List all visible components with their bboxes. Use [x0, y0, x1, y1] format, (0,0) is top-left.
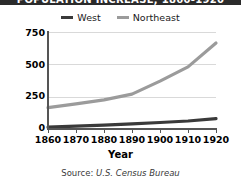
source-prefix: Source:: [61, 168, 93, 178]
series-line-west: [48, 119, 216, 127]
y-tick-label-750: 750: [17, 28, 45, 38]
x-axis-title: Year: [0, 149, 241, 160]
x-tick-1900: [160, 129, 161, 133]
chart-title-band: POPULATION INCREASE, 1860-1920: [0, 0, 241, 5]
x-tick-1860: [48, 129, 49, 133]
x-tick-1870: [76, 129, 77, 133]
plot-area: [48, 32, 216, 129]
chart-legend: West Northeast: [0, 12, 241, 23]
legend-item-northeast: Northeast: [117, 12, 180, 23]
x-tick-1920: [216, 129, 217, 133]
legend-swatch-west: [61, 16, 73, 19]
series-lines: [48, 32, 216, 129]
y-tick-label-0: 0: [17, 123, 45, 133]
y-tick-label-250: 250: [17, 91, 45, 101]
source-note: Source: U.S. Census Bureau: [0, 168, 241, 178]
chart-title: POPULATION INCREASE, 1860-1920: [0, 0, 241, 5]
legend-label-northeast: Northeast: [133, 12, 180, 23]
source-text: U.S. Census Bureau: [96, 168, 180, 178]
legend-swatch-northeast: [117, 16, 129, 19]
y-tick-label-500: 500: [17, 60, 45, 70]
x-tick-1910: [188, 129, 189, 133]
x-tick-1880: [104, 129, 105, 133]
legend-label-west: West: [77, 12, 100, 23]
x-tick-label-1920: 1920: [199, 134, 233, 145]
x-tick-1890: [132, 129, 133, 133]
series-line-northeast: [48, 43, 216, 108]
population-increase-line-chart: POPULATION INCREASE, 1860-1920 West Nort…: [0, 0, 241, 188]
legend-item-west: West: [61, 12, 100, 23]
y-axis-line: [47, 31, 49, 130]
